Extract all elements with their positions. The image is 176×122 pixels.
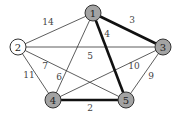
node-2: 2: [10, 39, 26, 55]
node-label: 4: [50, 95, 56, 106]
node-label: 3: [160, 42, 166, 53]
edge-weight-label-1-3: 3: [129, 15, 135, 25]
edge-1-2: [18, 13, 93, 47]
node-4: 4: [45, 92, 61, 108]
node-label: 2: [15, 42, 21, 53]
edge-weight-label-2-3: 5: [87, 51, 93, 61]
edge-weight-label-1-5: 4: [104, 29, 110, 39]
node-1: 1: [85, 5, 101, 21]
node-3: 3: [155, 39, 171, 55]
edge-labels-layer: 1434657111092: [23, 15, 154, 113]
edge-weight-label-2-5: 7: [42, 61, 48, 71]
node-label: 5: [123, 95, 129, 106]
weighted-graph-diagram: 1434657111092 12345: [0, 0, 176, 122]
edge-weight-label-4-5: 2: [87, 103, 93, 113]
edge-3-5: [126, 47, 163, 100]
edge-weight-label-2-4: 11: [23, 70, 34, 80]
node-label: 1: [90, 8, 96, 19]
edge-weight-label-3-4: 10: [128, 61, 140, 71]
edge-weight-label-1-2: 14: [42, 17, 54, 27]
edge-weight-label-3-5: 9: [148, 71, 154, 81]
node-5: 5: [118, 92, 134, 108]
edge-weight-label-1-4: 6: [56, 72, 62, 82]
